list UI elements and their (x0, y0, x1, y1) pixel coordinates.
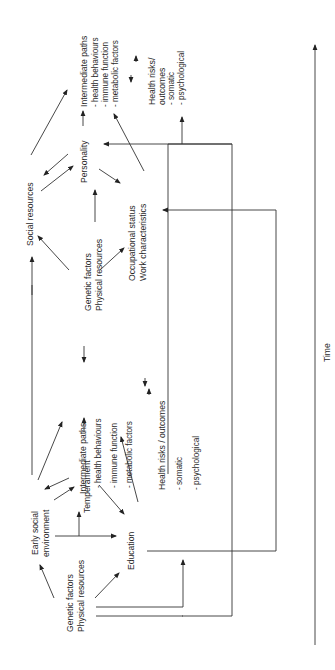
node-genetic-factors-2: Genetic factors Physical resources (83, 239, 104, 311)
svg-text:- somatic: - somatic (175, 457, 184, 490)
svg-text:- psychological: - psychological (177, 51, 186, 105)
node-early-social-environment: Early social environment (30, 509, 51, 557)
svg-text:- metabolic factors: - metabolic factors (111, 40, 120, 107)
node-occupational-status: Occupational status Work characteristics (127, 204, 148, 281)
connector-lines (96, 117, 276, 616)
time-axis-label: Time (322, 343, 332, 362)
svg-text:Intermediate paths: Intermediate paths (79, 36, 89, 107)
svg-text:Physical resources: Physical resources (76, 560, 86, 632)
svg-text:- immune function: - immune function (101, 41, 110, 107)
svg-text:- health behaviours: - health behaviours (94, 418, 103, 488)
svg-text:- psychological: - psychological (192, 436, 201, 490)
svg-text:Health risks / outcomes: Health risks / outcomes (157, 401, 167, 490)
svg-text:environment: environment (41, 509, 51, 557)
svg-text:Occupational status: Occupational status (127, 206, 137, 281)
node-social-resources: Social resources (25, 182, 35, 246)
svg-text:- somatic: - somatic (167, 72, 176, 105)
svg-text:- metabolic factors: - metabolic factors (125, 421, 134, 488)
svg-text:Genetic factors: Genetic factors (83, 253, 93, 311)
life-course-diagram: Genetic factors Physical resources Early… (0, 0, 335, 670)
node-intermediate-paths-2: Intermediate paths - health behaviours -… (79, 36, 120, 107)
svg-text:Genetic factors: Genetic factors (65, 574, 75, 632)
svg-text:Work characteristics: Work characteristics (138, 204, 148, 281)
node-genetic-factors-1: Genetic factors Physical resources (65, 560, 86, 632)
svg-text:Health risks/: Health risks/ (147, 57, 157, 105)
node-health-risks-1: Health risks / outcomes - somatic - psyc… (157, 401, 201, 490)
svg-text:- immune function: - immune function (110, 422, 119, 488)
node-health-risks-2: Health risks/ outcomes - somatic - psych… (147, 51, 186, 105)
svg-text:outcomes: outcomes (157, 68, 167, 105)
svg-text:Intermediate paths: Intermediate paths (78, 423, 88, 494)
node-personality: Personality (79, 140, 89, 183)
svg-text:Physical resources: Physical resources (94, 239, 104, 311)
svg-text:- health behaviours: - health behaviours (91, 37, 100, 107)
svg-text:Early social: Early social (30, 511, 40, 555)
node-education: Education (126, 532, 136, 570)
